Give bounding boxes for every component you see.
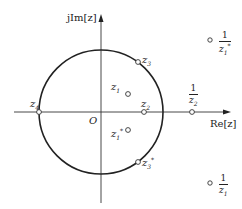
point-z3-conj xyxy=(136,160,141,165)
label-inv-z2: 1 z2 xyxy=(189,84,198,107)
imag-axis-arrow-icon xyxy=(99,14,104,22)
point-inv-z1-conj xyxy=(208,38,212,42)
imag-axis-label: jIm[z] xyxy=(67,13,97,23)
label-z3: z3 xyxy=(142,55,151,67)
point-z3 xyxy=(136,60,141,65)
real-axis-arrow-icon xyxy=(223,110,231,115)
label-z1: z1 xyxy=(111,82,120,94)
point-z1-conj xyxy=(126,128,131,133)
origin-label: O xyxy=(89,116,97,126)
label-z2: z2 xyxy=(141,99,150,111)
point-inv-z1 xyxy=(208,181,212,185)
real-axis-label: Re[z] xyxy=(210,119,237,129)
label-z3-conj: z3* xyxy=(142,157,154,170)
point-z1 xyxy=(126,92,131,97)
point-inv-z2 xyxy=(190,110,195,115)
label-inv-z1-conj: 1 z1* xyxy=(219,31,231,56)
label-z1-conj: z1* xyxy=(111,128,123,141)
label-inv-z1: 1 z1 xyxy=(219,174,228,197)
label-z4: z4 xyxy=(30,99,39,111)
